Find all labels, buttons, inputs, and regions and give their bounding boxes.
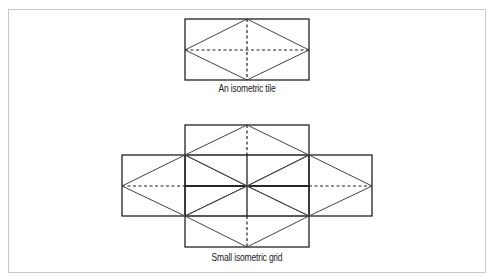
isometric-grid [122,125,372,247]
grid-caption: Small isometric grid [37,252,457,263]
grid-left-box [122,155,185,216]
tile-caption: An isometric tile [37,83,457,94]
grid-right-box [309,155,372,216]
isometric-tile [185,19,309,80]
isometric-diagram [0,0,494,280]
